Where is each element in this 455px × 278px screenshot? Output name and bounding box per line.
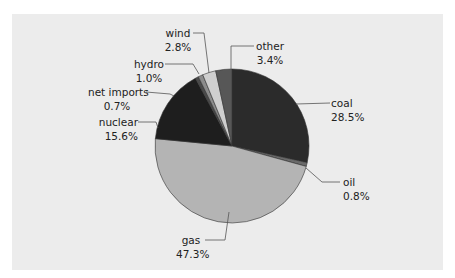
leader-line-coal xyxy=(296,103,330,104)
pie-slices xyxy=(155,69,309,223)
label-other-pct: 3.4% xyxy=(255,53,285,67)
label-wind-name: wind xyxy=(164,26,192,40)
leader-line-other xyxy=(231,46,254,70)
label-net-imports-pct: 0.7% xyxy=(88,99,146,113)
pie-chart xyxy=(0,0,455,278)
label-nuclear-name: nuclear xyxy=(96,115,138,129)
label-hydro-pct: 1.0% xyxy=(133,71,165,85)
label-oil-name: oil xyxy=(343,175,370,189)
label-oil: oil 0.8% xyxy=(343,175,370,203)
leader-line-oil xyxy=(306,168,340,182)
label-coal-pct: 28.5% xyxy=(331,110,364,124)
leader-line-wind xyxy=(193,33,209,73)
label-gas-pct: 47.3% xyxy=(176,247,206,261)
label-nuclear-pct: 15.6% xyxy=(96,129,138,143)
label-wind-pct: 2.8% xyxy=(164,40,192,54)
label-hydro: hydro 1.0% xyxy=(133,57,165,85)
label-coal-name: coal xyxy=(331,96,364,110)
label-net-imports-name: net imports xyxy=(88,85,146,99)
label-oil-pct: 0.8% xyxy=(343,189,370,203)
leader-line-net-imports xyxy=(146,92,174,96)
leader-line-hydro xyxy=(165,64,199,74)
label-coal: coal 28.5% xyxy=(331,96,364,124)
label-other: other 3.4% xyxy=(255,39,285,67)
leader-line-nuclear xyxy=(138,122,158,128)
label-wind: wind 2.8% xyxy=(164,26,192,54)
label-nuclear: nuclear 15.6% xyxy=(96,115,138,143)
label-gas: gas 47.3% xyxy=(176,233,206,261)
label-net-imports: net imports 0.7% xyxy=(88,85,146,113)
label-other-name: other xyxy=(255,39,285,53)
label-gas-name: gas xyxy=(176,233,206,247)
label-hydro-name: hydro xyxy=(133,57,165,71)
